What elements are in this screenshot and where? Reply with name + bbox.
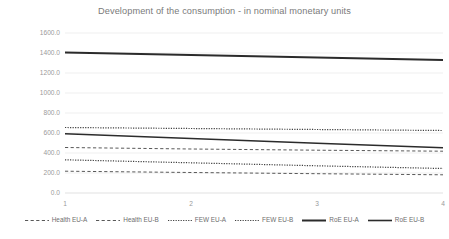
series-line (65, 53, 443, 61)
legend-swatch-dotted (168, 217, 192, 224)
data-series-group (65, 53, 443, 175)
x-axis-tick-label: 2 (189, 200, 193, 207)
chart-container: Development of the consumption - in nomi… (0, 0, 449, 239)
legend-item-label: Health EU-B (123, 216, 159, 224)
legend-swatch-dashed (25, 217, 49, 224)
legend-item-label: RoE EU-B (395, 216, 424, 224)
y-axis-tick-label: 600.0 (43, 129, 60, 136)
legend-item-label: Health EU-A (52, 216, 88, 224)
legend-swatch-solid (302, 217, 326, 224)
y-axis-tick-labels: 1600.01400.01200.01000.0800.0600.0400.02… (40, 29, 61, 196)
legend-item[interactable]: FEW EU-B (235, 216, 293, 224)
legend-swatch-dotted (235, 217, 259, 224)
y-axis-tick-label: 0.0 (51, 189, 60, 196)
y-axis-tick-label: 200.0 (43, 169, 60, 176)
legend-item[interactable]: Health EU-A (25, 216, 88, 224)
series-line (65, 160, 443, 169)
y-axis-tick-label: 400.0 (43, 149, 60, 156)
legend-item[interactable]: RoE EU-A (302, 216, 358, 224)
x-axis-tick-labels: 1234 (63, 200, 445, 207)
y-axis-tick-label: 800.0 (43, 109, 60, 116)
legend-swatch-solid (368, 217, 392, 224)
series-line (65, 148, 443, 152)
x-axis-tick-label: 4 (441, 200, 445, 207)
legend-item-label: FEW EU-B (262, 216, 293, 224)
legend-swatch-dashed (96, 217, 120, 224)
series-line (65, 134, 443, 148)
y-axis-tick-label: 1600.0 (40, 29, 61, 36)
chart-plot-area: 1600.01400.01200.01000.0800.0600.0400.02… (0, 0, 449, 239)
y-axis-tick-label: 1000.0 (40, 89, 61, 96)
legend-item-label: RoE EU-A (329, 216, 358, 224)
series-line (65, 128, 443, 131)
chart-legend: Health EU-AHealth EU-BFEW EU-AFEW EU-BRo… (0, 216, 449, 224)
y-axis-tick-label: 1200.0 (40, 69, 61, 76)
x-axis-tick-label: 3 (315, 200, 319, 207)
legend-item[interactable]: RoE EU-B (368, 216, 424, 224)
legend-item[interactable]: Health EU-B (96, 216, 159, 224)
y-axis-tick-label: 1400.0 (40, 49, 61, 56)
x-axis-tick-label: 1 (63, 200, 67, 207)
legend-item-label: FEW EU-A (195, 216, 226, 224)
legend-item[interactable]: FEW EU-A (168, 216, 226, 224)
